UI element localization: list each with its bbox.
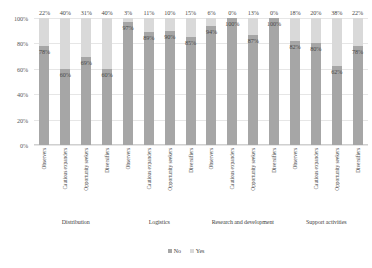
bar-segment-no[interactable]: 18%: [290, 18, 300, 41]
category-label-slot: Opportunity seekers: [76, 147, 97, 215]
chart-legend: NoYes: [0, 248, 372, 254]
bar-segment-yes[interactable]: 80%: [311, 43, 321, 145]
bar-stack[interactable]: 38%62%: [332, 18, 342, 145]
bar-segment-yes[interactable]: 100%: [269, 18, 279, 145]
category-label-slot: Diversifiers: [97, 147, 118, 215]
bar-stack[interactable]: 0%100%: [269, 18, 279, 145]
bar-segment-no[interactable]: 40%: [60, 18, 70, 69]
stacked-bar-chart: 100%80%60%40%20%0% 22%78%40%60%31%69%40%…: [0, 0, 372, 268]
bar-slot: 20%80%: [305, 18, 326, 145]
bar-value-label-yes: 89%: [143, 35, 154, 41]
group-axis-labels: DistributionLogisticsResearch and develo…: [34, 215, 368, 229]
bar-stack[interactable]: 13%87%: [248, 18, 258, 145]
bar-stack[interactable]: 22%78%: [353, 18, 363, 145]
bar-segment-no[interactable]: 6%: [206, 18, 216, 26]
legend-item[interactable]: Yes: [190, 248, 204, 254]
bar-value-label-no: 0%: [270, 10, 278, 16]
bar-value-label-yes: 97%: [122, 25, 133, 31]
bar-stack[interactable]: 11%89%: [144, 18, 154, 145]
bar-segment-yes[interactable]: 89%: [144, 32, 154, 145]
bar-segment-no[interactable]: 15%: [186, 18, 196, 37]
category-label: Diversifiers: [104, 148, 110, 173]
bar-segment-yes[interactable]: 85%: [186, 37, 196, 145]
bar-value-label-no: 11%: [143, 10, 154, 16]
bar-value-label-yes: 69%: [81, 60, 92, 66]
category-label-slot: Opportunity seekers: [243, 147, 264, 215]
bar-segment-yes[interactable]: 97%: [123, 22, 133, 145]
group-label-slot: Research and development: [201, 215, 285, 229]
bar-slot: 6%94%: [201, 18, 222, 145]
bar-segment-no[interactable]: 13%: [248, 18, 258, 35]
bar-slot: 13%87%: [243, 18, 264, 145]
category-label: Observers: [125, 148, 131, 169]
legend-item[interactable]: No: [168, 248, 181, 254]
bar-segment-no[interactable]: 10%: [165, 18, 175, 31]
bar-segment-yes[interactable]: 60%: [102, 69, 112, 145]
bar-stack[interactable]: 6%94%: [206, 18, 216, 145]
bar-stack[interactable]: 40%60%: [60, 18, 70, 145]
bar-stack[interactable]: 40%60%: [102, 18, 112, 145]
category-label: Diversifiers: [188, 148, 194, 173]
bar-value-label-yes: 90%: [164, 34, 175, 40]
bar-value-label-yes: 85%: [185, 40, 196, 46]
bar-segment-yes[interactable]: 94%: [206, 26, 216, 145]
category-label: Observers: [208, 148, 214, 169]
category-label: Cautious expanders: [146, 148, 152, 189]
bar-segment-yes[interactable]: 90%: [165, 31, 175, 145]
category-label-slot: Observers: [34, 147, 55, 215]
bar-stack[interactable]: 20%80%: [311, 18, 321, 145]
group-label: Research and development: [212, 219, 274, 225]
bar-segment-yes[interactable]: 78%: [353, 46, 363, 145]
category-label-slot: Observers: [201, 147, 222, 215]
bar-value-label-no: 6%: [207, 10, 215, 16]
bar-value-label-no: 22%: [39, 10, 50, 16]
category-label-slot: Opportunity seekers: [159, 147, 180, 215]
bar-segment-yes[interactable]: 100%: [227, 18, 237, 145]
bar-segment-yes[interactable]: 62%: [332, 66, 342, 145]
bar-segment-yes[interactable]: 87%: [248, 35, 258, 145]
y-axis-tick-label: 0%: [20, 142, 28, 149]
group-label: Distribution: [62, 219, 90, 225]
bar-stack[interactable]: 10%90%: [165, 18, 175, 145]
bar-segment-no[interactable]: 11%: [144, 18, 154, 32]
category-label-slot: Cautious expanders: [305, 147, 326, 215]
category-label: Observers: [41, 148, 47, 169]
legend-swatch: [168, 249, 172, 253]
bar-segment-no[interactable]: 22%: [353, 18, 363, 46]
bar-segment-no[interactable]: 31%: [81, 18, 91, 57]
bar-stack[interactable]: 15%85%: [186, 18, 196, 145]
category-label-slot: Diversifiers: [180, 147, 201, 215]
bar-value-label-no: 10%: [164, 10, 175, 16]
bar-stack[interactable]: 31%69%: [81, 18, 91, 145]
bar-stack[interactable]: 3%97%: [123, 18, 133, 145]
bar-value-label-no: 40%: [102, 10, 113, 16]
category-label-slot: Cautious expanders: [222, 147, 243, 215]
bar-segment-no[interactable]: 20%: [311, 18, 321, 43]
y-axis-tick-label: 20%: [17, 116, 28, 123]
category-label-slot: Diversifiers: [347, 147, 368, 215]
bar-stack[interactable]: 0%100%: [227, 18, 237, 145]
legend-label: No: [174, 248, 181, 254]
bar-segment-yes[interactable]: 78%: [39, 46, 49, 145]
bar-segment-yes[interactable]: 82%: [290, 41, 300, 145]
category-label-slot: Observers: [285, 147, 306, 215]
bar-value-label-yes: 60%: [102, 72, 113, 78]
bar-slot: 22%78%: [34, 18, 55, 145]
bar-segment-yes[interactable]: 60%: [60, 69, 70, 145]
category-label: Opportunity seekers: [250, 148, 256, 191]
bar-value-label-no: 3%: [124, 10, 132, 16]
bar-slot: 11%89%: [138, 18, 159, 145]
category-label: Opportunity seekers: [83, 148, 89, 191]
bar-segment-no[interactable]: 40%: [102, 18, 112, 69]
category-label: Opportunity seekers: [167, 148, 173, 191]
bar-slot: 3%97%: [118, 18, 139, 145]
bar-stack[interactable]: 18%82%: [290, 18, 300, 145]
bar-stack[interactable]: 22%78%: [39, 18, 49, 145]
group-label-slot: Support activities: [285, 215, 369, 229]
bar-segment-no[interactable]: 38%: [332, 18, 342, 66]
bar-segment-yes[interactable]: 69%: [81, 57, 91, 145]
bar-value-label-no: 0%: [228, 10, 236, 16]
bar-segment-no[interactable]: 22%: [39, 18, 49, 46]
category-label: Diversifiers: [355, 148, 361, 173]
bar-value-label-yes: 78%: [39, 49, 50, 55]
